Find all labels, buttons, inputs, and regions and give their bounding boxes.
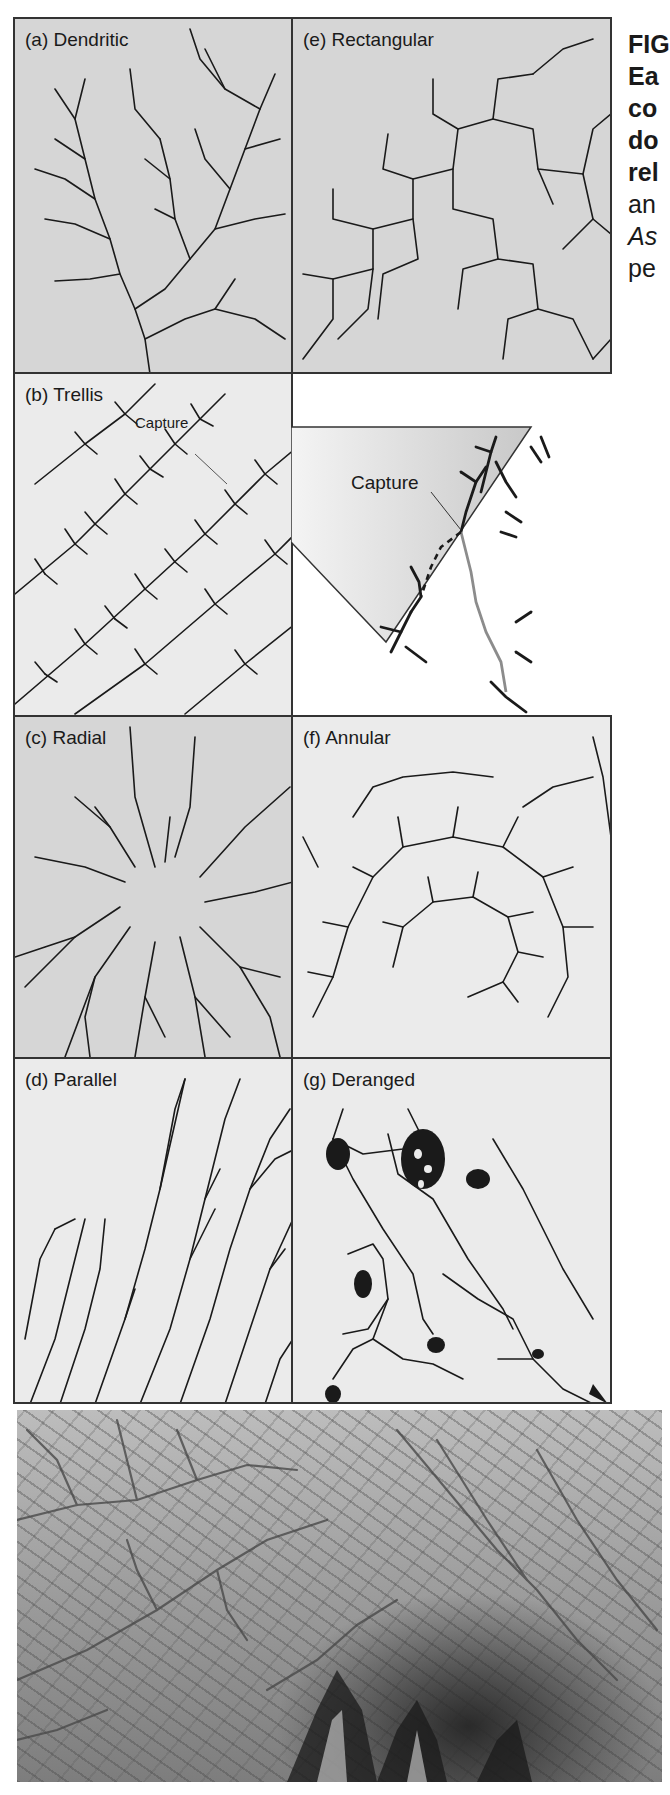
panel-deranged: (g) Deranged: [291, 1057, 612, 1404]
deranged-streams-icon: [293, 1059, 612, 1404]
radial-streams-icon: [15, 717, 293, 1059]
caption-line: an: [628, 188, 670, 220]
caption-line: As: [628, 220, 670, 252]
panel-label: (e) Rectangular: [303, 29, 434, 51]
dendritic-streams-icon: [15, 19, 293, 374]
capture-inset-callout-label: Capture: [351, 472, 419, 494]
caption-line: co: [628, 92, 670, 124]
aerial-photo: [17, 1410, 662, 1782]
panel-label: (b) Trellis: [25, 384, 103, 406]
panel-annular: (f) Annular: [291, 715, 612, 1059]
caption-line: Ea: [628, 60, 670, 92]
panel-label: (a) Dendritic: [25, 29, 128, 51]
panel-label: (d) Parallel: [25, 1069, 117, 1091]
caption-line: FIG: [628, 28, 670, 60]
panel-label: (g) Deranged: [303, 1069, 415, 1091]
caption-line: rel: [628, 156, 670, 188]
parallel-streams-icon: [15, 1059, 293, 1404]
figure-caption: FIG Ea co do rel an As pe: [628, 28, 670, 284]
panel-radial: (c) Radial: [13, 715, 293, 1059]
capture-callout-label: Capture: [135, 414, 188, 431]
capture-inset-graphic: [291, 372, 612, 717]
annular-streams-icon: [293, 717, 612, 1059]
panel-label: (c) Radial: [25, 727, 106, 749]
panel-rectangular: (e) Rectangular: [291, 17, 612, 374]
capture-inset: Capture: [291, 372, 612, 717]
panel-label: (f) Annular: [303, 727, 391, 749]
panel-parallel: (d) Parallel: [13, 1057, 293, 1404]
rectangular-streams-icon: [293, 19, 612, 374]
caption-line: pe: [628, 252, 670, 284]
aerial-drainage-pattern-icon: [17, 1410, 662, 1782]
panel-trellis: (b) Trellis Capture: [13, 372, 293, 717]
panel-dendritic: (a) Dendritic: [13, 17, 293, 374]
caption-line: do: [628, 124, 670, 156]
